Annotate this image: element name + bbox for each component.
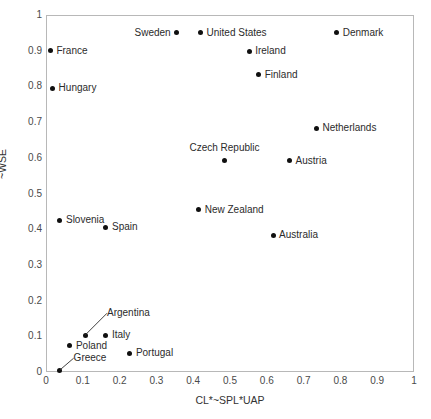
x-tick-label: 0.3 [136,376,176,386]
y-tick-label: 0.2 [2,296,42,306]
data-point [57,368,62,373]
x-tick-label: 0.7 [284,376,324,386]
y-tick-label: 0.1 [2,331,42,341]
label-leader-line [0,0,1,1]
data-point-label: France [56,46,87,56]
x-tick-label: 1 [394,376,431,386]
x-tick-label: 0.9 [357,376,397,386]
data-point-label: New Zealand [205,205,264,215]
data-point [83,333,88,338]
data-point-label: Czech Republic [189,143,259,153]
y-tick-label: 0.6 [2,153,42,163]
y-tick-label: 0.7 [2,117,42,127]
y-tick-label: 0.5 [2,189,42,199]
plot-area [46,15,414,372]
data-point-label: Italy [112,330,130,340]
x-tick-label: 0.4 [173,376,213,386]
x-tick-label: 0.5 [210,376,250,386]
y-tick-label: 1 [2,10,42,20]
data-point [314,126,319,131]
data-point-label: Poland [76,341,107,351]
data-point-label: Australia [279,230,318,240]
data-point-label: Spain [112,222,138,232]
data-point-label: Denmark [343,28,384,38]
data-point-label: Argentina [107,308,150,318]
x-tick-label: 0.2 [100,376,140,386]
data-point [247,49,252,54]
x-tick-label: 0 [26,376,66,386]
data-point-label: Slovenia [66,215,104,225]
scatter-plot-figure: 00.10.20.30.40.50.60.70.80.91 00.10.20.3… [0,0,431,419]
data-point-label: Ireland [255,46,286,56]
data-point-label: Portugal [136,348,173,358]
data-point-label: Sweden [134,28,170,38]
data-point-label: Greece [74,353,107,363]
data-point-label: Netherlands [322,123,376,133]
y-tick-label: 0.8 [2,81,42,91]
data-point [50,86,55,91]
data-point-label: Austria [296,156,327,166]
y-tick-label: 0.3 [2,260,42,270]
data-point-label: United States [207,28,267,38]
data-point-label: Hungary [59,83,97,93]
data-point [271,233,276,238]
y-tick-label: 0.4 [2,224,42,234]
x-tick-label: 0.6 [247,376,287,386]
x-tick-label: 0.1 [63,376,103,386]
y-axis-title: ~WSE [0,149,8,179]
data-point-label: Finland [265,70,298,80]
y-tick-label: 0.9 [2,46,42,56]
x-axis-title: CL*~SPL*UAP [46,394,414,406]
x-tick-label: 0.8 [320,376,360,386]
label-leader-line [0,0,1,1]
